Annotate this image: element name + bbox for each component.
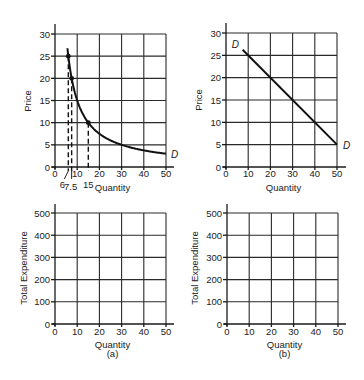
- x-tick-label: 10: [243, 168, 254, 179]
- annotation-leader-6: [64, 170, 69, 179]
- x-tick-label: 50: [333, 326, 344, 337]
- x-tick-label: 40: [311, 326, 322, 337]
- x-axis-title: Quantity: [95, 182, 131, 193]
- y-tick-label: 400: [34, 230, 50, 241]
- x-tick-label: 30: [116, 326, 127, 337]
- y-tick-label: 500: [206, 208, 222, 219]
- x-tick-label: 10: [72, 168, 83, 179]
- panel-label: (a): [107, 348, 119, 359]
- y-tick-label: 500: [34, 208, 50, 219]
- y-tick-label: 100: [34, 296, 50, 307]
- demand-label-start: D: [232, 39, 239, 50]
- y-tick-label: 5: [45, 139, 50, 150]
- marked-point: [66, 54, 71, 59]
- x-tick-label: 20: [94, 168, 105, 179]
- x-tick-label: 0: [52, 168, 57, 179]
- panel-total-expenditure-b: 010020030040050001020304050Quantity(b)To…: [189, 204, 346, 359]
- x-tick-label: 20: [265, 168, 276, 179]
- x-tick-label: 30: [116, 168, 127, 179]
- panel-total-expenditure-a: 010020030040050001020304050Quantity(a)To…: [18, 204, 174, 359]
- x-tick-label: 40: [139, 168, 150, 179]
- x-tick-label: 50: [161, 168, 172, 179]
- marked-point: [69, 76, 74, 81]
- y-tick-label: 20: [39, 73, 50, 84]
- y-tick-label: 0: [45, 319, 50, 330]
- y-axis-title: Total Expenditure: [18, 231, 29, 304]
- y-tick-label: 300: [206, 252, 222, 263]
- demand-label: D: [171, 149, 178, 160]
- y-tick-label: 200: [206, 274, 222, 285]
- x-tick-label: 10: [72, 326, 83, 337]
- x-tick-label: 50: [161, 326, 172, 337]
- x-tick-label: 40: [310, 168, 321, 179]
- x-tick-label: 40: [139, 326, 150, 337]
- x-tick-label: 50: [332, 168, 343, 179]
- y-tick-label: 100: [206, 296, 222, 307]
- x-tick-label: 0: [223, 168, 228, 179]
- panel-price-quantity-a: 05101520253001020304050QuantityPriceD67.…: [22, 24, 178, 193]
- x-tick-label: 0: [52, 326, 57, 337]
- y-tick-label: 15: [39, 95, 50, 106]
- demand-label-end: D: [343, 140, 350, 151]
- y-tick-label: 10: [39, 117, 50, 128]
- demand-line: [243, 50, 337, 145]
- figure: 05101520253001020304050QuantityPriceD67.…: [0, 0, 364, 380]
- y-tick-label: 20: [210, 72, 221, 83]
- x-tick-label: 20: [94, 326, 105, 337]
- x-tick-label: 0: [224, 326, 229, 337]
- y-tick-label: 30: [210, 28, 221, 39]
- y-tick-label: 0: [45, 162, 50, 173]
- x-tick-label: 20: [266, 326, 277, 337]
- y-tick-label: 300: [34, 252, 50, 263]
- y-tick-label: 200: [34, 274, 50, 285]
- panel-label: (b): [279, 348, 291, 359]
- y-tick-label: 5: [216, 139, 221, 150]
- y-tick-label: 0: [217, 319, 222, 330]
- x-tick-label: 10: [244, 326, 255, 337]
- y-axis-title: Price: [193, 89, 204, 111]
- marked-point: [86, 120, 91, 125]
- annotation-label-15: 15: [83, 179, 94, 190]
- y-axis-title: Price: [22, 90, 33, 112]
- y-tick-label: 25: [39, 51, 50, 62]
- panel-price-quantity-b: 05101520253001020304050QuantityPriceDD: [193, 23, 350, 193]
- y-axis-title: Total Expenditure: [189, 231, 200, 304]
- y-tick-label: 15: [210, 95, 221, 106]
- x-tick-label: 30: [287, 168, 298, 179]
- y-tick-label: 400: [206, 230, 222, 241]
- x-tick-label: 30: [288, 326, 299, 337]
- y-tick-label: 30: [39, 29, 50, 40]
- x-axis-title: Quantity: [266, 182, 302, 193]
- y-tick-label: 0: [216, 162, 221, 173]
- y-tick-label: 10: [210, 117, 221, 128]
- annotation-label-7-5: 7.5: [64, 181, 77, 192]
- y-tick-label: 25: [210, 50, 221, 61]
